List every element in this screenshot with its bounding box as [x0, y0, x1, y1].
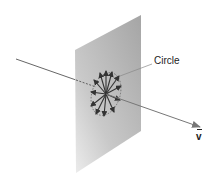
vector-v-label: v	[196, 131, 202, 142]
axis-line-incoming	[16, 59, 76, 80]
circle-label: Circle	[154, 55, 180, 66]
diagram-canvas	[0, 0, 213, 184]
vector-bar-icon	[197, 129, 202, 130]
plane	[75, 15, 141, 173]
